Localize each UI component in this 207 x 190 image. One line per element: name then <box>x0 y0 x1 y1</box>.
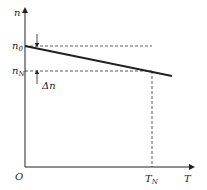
diagram-canvas: n n0 nN Δn O TN T <box>0 0 207 190</box>
speed-torque-diagram: n n0 nN Δn O TN T <box>0 0 207 190</box>
y-axis-label: n <box>14 7 20 18</box>
n0-label: n0 <box>12 40 23 53</box>
TN-label: TN <box>145 173 159 186</box>
origin-label: O <box>15 171 23 182</box>
nN-label: nN <box>12 65 25 78</box>
x-axis-label: T <box>184 173 192 184</box>
characteristic-line <box>25 46 172 76</box>
delta-n-label: Δn <box>41 80 56 91</box>
